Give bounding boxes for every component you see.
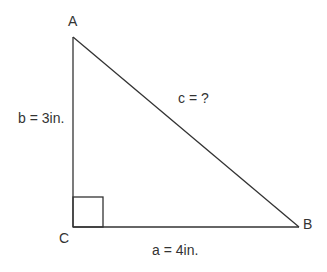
side-c-hypotenuse-line	[73, 37, 299, 227]
right-angle-marker	[73, 197, 103, 227]
side-b-label: b = 3in.	[18, 111, 64, 125]
vertex-label-a: A	[68, 14, 77, 28]
vertex-label-c: C	[59, 231, 69, 245]
vertex-label-b: B	[303, 217, 312, 231]
side-a-label: a = 4in.	[152, 243, 198, 257]
side-c-label: c = ?	[178, 91, 209, 105]
triangle-diagram	[0, 0, 327, 272]
